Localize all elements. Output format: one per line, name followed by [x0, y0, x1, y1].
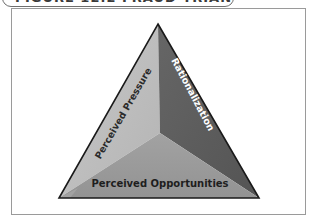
fraud-triangle-diagram: Perceived Pressure Rationalization Perce… [0, 0, 313, 221]
figure-title: FIGURE 12.2 FRAUD TRIANGLE [15, 0, 234, 5]
label-perceived-opportunities: Perceived Opportunities [91, 178, 228, 189]
figure-header-tab: FIGURE 12.2 FRAUD TRIANGLE [2, 0, 234, 7]
